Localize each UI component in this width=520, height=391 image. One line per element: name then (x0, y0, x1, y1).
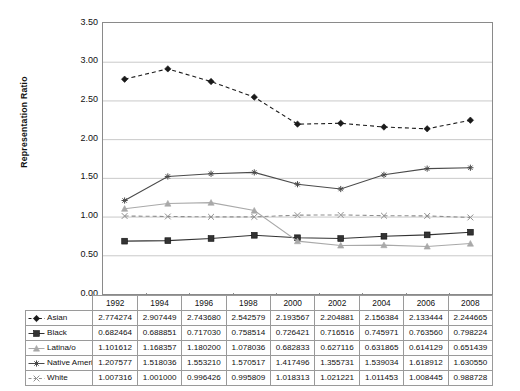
square-marker (122, 238, 128, 244)
table-cell-value: 1.007316 (93, 371, 137, 386)
table-cell-value: 0.716516 (315, 326, 359, 341)
data-point-marker (294, 181, 300, 187)
series-latina-o (122, 200, 474, 250)
data-point-marker (338, 186, 344, 192)
legend-entry: Latina/o (26, 341, 93, 356)
data-point-marker (338, 120, 344, 126)
table-cell-value: 0.717030 (182, 326, 226, 341)
table-cell-value: 2.156384 (359, 311, 403, 326)
legend-entry: Black (26, 326, 93, 341)
table-cell-value: 0.682464 (93, 326, 137, 341)
data-point-marker (467, 165, 473, 171)
table-column-header-year: 2004 (359, 296, 403, 311)
diamond-marker (121, 76, 127, 82)
square-marker (424, 232, 430, 238)
series-asian (121, 66, 473, 132)
table-column-header-year: 1996 (182, 296, 226, 311)
table-column-header-year: 1998 (226, 296, 270, 311)
legend-entry: Asian (26, 311, 93, 326)
legend-label: Asian (47, 311, 67, 325)
data-point-marker (424, 126, 430, 132)
table-cell-value: 1.630550 (448, 356, 492, 371)
table-cell-value: 0.798224 (448, 326, 492, 341)
series-white (122, 212, 474, 220)
y-axis-tick-label: 2.00 (58, 134, 98, 143)
table-row: Asian2.7742742.9074492.7436802.5425792.1… (26, 311, 493, 326)
data-point-marker (251, 169, 257, 175)
data-point-marker (34, 330, 40, 336)
table-cell-value: 2.774274 (93, 311, 137, 326)
y-axis-tick-label: 3.50 (58, 18, 98, 27)
legend-entry: Native American (26, 356, 93, 371)
data-point-marker (467, 229, 473, 235)
diamond-marker (294, 121, 300, 127)
table-column-header-year: 2002 (315, 296, 359, 311)
diamond-marker (208, 78, 214, 84)
diamond-marker (33, 315, 39, 321)
y-axis-title: Representation Ratio (19, 22, 29, 222)
data-point-marker (251, 94, 257, 100)
diamond-marker (338, 120, 344, 126)
square-marker (381, 233, 387, 239)
legend-label: White (47, 371, 68, 385)
table-column-header-year: 2006 (404, 296, 448, 311)
table-row: Native American1.2075771.5180361.5532101… (26, 356, 493, 371)
table-cell-value: 1.011453 (359, 371, 403, 386)
legend-label: Black (47, 326, 67, 340)
data-point-marker (208, 171, 214, 177)
table-cell-value: 1.570517 (226, 356, 270, 371)
y-axis-tick-label: 0.50 (58, 250, 98, 259)
table-cell-value: 1.078036 (226, 341, 270, 356)
y-axis-tick-label: 3.00 (58, 56, 98, 65)
data-point-marker (467, 117, 473, 123)
data-point-marker (381, 172, 387, 178)
table-cell-value: 2.133444 (404, 311, 448, 326)
table-cell-value: 1.180200 (182, 341, 226, 356)
diamond-marker (251, 94, 257, 100)
table-cell-value: 1.553210 (182, 356, 226, 371)
series-canvas (103, 23, 492, 294)
data-point-marker (424, 232, 430, 238)
data-point-marker (165, 238, 171, 244)
legend-entry: White (26, 371, 93, 386)
legend-label: Latina/o (47, 341, 76, 355)
table-header-row: 199219941996199820002002200420062008 (26, 296, 493, 311)
table-cell-value: 1.518036 (137, 356, 181, 371)
data-point-marker (122, 238, 128, 244)
square-marker (208, 236, 214, 242)
table-cell-value: 0.614129 (404, 341, 448, 356)
table-cell-value: 2.743680 (182, 311, 226, 326)
table-cell-value: 1.021221 (315, 371, 359, 386)
table-cell-value: 0.688851 (137, 326, 181, 341)
plot-area (102, 22, 493, 295)
table-cell-value: 2.542579 (226, 311, 270, 326)
table-cell-value: 1.018313 (271, 371, 315, 386)
table-cell-value: 1.355731 (315, 356, 359, 371)
table-cell-value: 0.988728 (448, 371, 492, 386)
data-point-marker (381, 124, 387, 130)
table-cell-value: 2.907449 (137, 311, 181, 326)
data-point-marker (165, 66, 171, 72)
y-axis-tick-label: 1.50 (58, 172, 98, 181)
table-cell-value: 1.539034 (359, 356, 403, 371)
square-marker (467, 229, 473, 235)
diamond-marker (165, 66, 171, 72)
series-line (125, 69, 471, 129)
legend-marker-triangle-icon (28, 343, 45, 354)
table-cell-value: 2.244665 (448, 311, 492, 326)
table-cell-value: 0.996426 (182, 371, 226, 386)
table-cell-value: 0.763560 (404, 326, 448, 341)
category-separators (147, 293, 450, 294)
legend-marker-diamond-icon (28, 313, 45, 324)
data-point-marker (122, 197, 128, 203)
table-cell-value: 0.726421 (271, 326, 315, 341)
table-cell-value: 0.631865 (359, 341, 403, 356)
data-point-marker (294, 121, 300, 127)
table-cell-value: 1.101612 (93, 341, 137, 356)
chart-figure: Representation Ratio 3.503.002.502.001.5… (0, 0, 520, 391)
table-column-header-year: 1992 (93, 296, 137, 311)
diamond-marker (381, 124, 387, 130)
data-table: 199219941996199820002002200420062008 Asi… (25, 295, 493, 386)
data-point-marker (121, 76, 127, 82)
y-axis-tick-label: 2.50 (58, 95, 98, 104)
